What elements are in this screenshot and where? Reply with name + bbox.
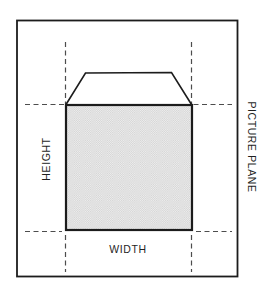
picture-plane-diagram: HEIGHT WIDTH PICTURE PLANE [0,0,268,293]
width-label: WIDTH [98,242,158,256]
projected-top-plane [66,73,192,105]
height-label: HEIGHT [39,99,53,219]
picture-plane-label: PICTURE PLANE [245,97,259,197]
shaded-picture-rectangle [66,105,192,230]
